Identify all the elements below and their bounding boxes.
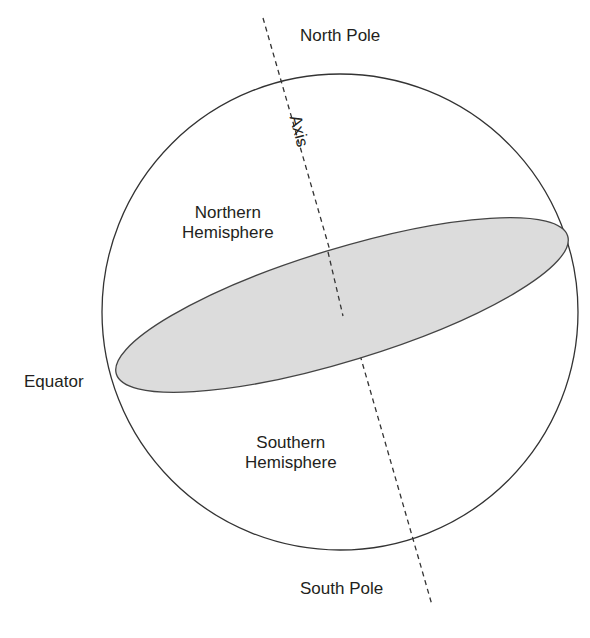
- south-pole-label: South Pole: [300, 579, 383, 599]
- northern-hemisphere-label: Northern Hemisphere: [182, 203, 274, 243]
- sphere-diagram: [0, 0, 590, 638]
- northern-label-line2: Hemisphere: [182, 223, 274, 243]
- southern-label-line1: Southern: [245, 433, 337, 453]
- north-pole-label: North Pole: [300, 26, 380, 46]
- southern-label-line2: Hemisphere: [245, 453, 337, 473]
- southern-hemisphere-label: Southern Hemisphere: [245, 433, 337, 473]
- equator-label: Equator: [24, 372, 84, 392]
- northern-label-line1: Northern: [182, 203, 274, 223]
- equatorial-plane: [100, 182, 584, 427]
